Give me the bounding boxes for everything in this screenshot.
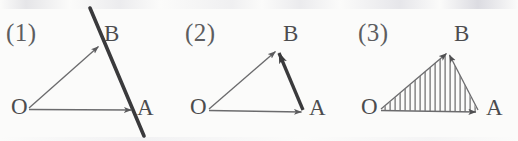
diagram-panel-2: (2) O B A xyxy=(172,0,344,141)
vertex-label-O: O xyxy=(361,95,378,118)
panel-number-1: (1) xyxy=(6,20,37,45)
vertex-label-A: A xyxy=(137,96,154,119)
vertex-label-B: B xyxy=(104,22,119,45)
vector-OB xyxy=(29,47,99,109)
hatched-triangle-region xyxy=(374,44,488,118)
vertex-label-B: B xyxy=(283,22,298,45)
panel-number-2: (2) xyxy=(185,20,216,45)
vertex-label-A: A xyxy=(309,96,326,119)
vector-OA xyxy=(209,111,302,113)
vertex-label-B: B xyxy=(454,22,469,45)
vertex-label-A: A xyxy=(486,96,503,119)
diagram-panel-3: (3) O B A xyxy=(344,0,518,141)
figure-root: (1) O B A (2) O B A xyxy=(0,0,518,141)
panel-number-3: (3) xyxy=(358,20,389,45)
vector-AB xyxy=(279,53,303,110)
vertex-label-O: O xyxy=(11,95,28,118)
vertex-label-O: O xyxy=(190,95,207,118)
vector-OA xyxy=(29,110,132,111)
vector-OB xyxy=(209,52,276,110)
diagram-panel-1: (1) O B A xyxy=(0,0,172,141)
